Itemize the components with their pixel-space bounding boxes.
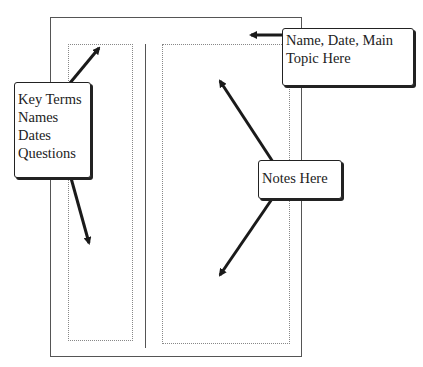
callout-notes: Notes Here xyxy=(258,160,342,199)
callout-key-terms-line: Dates xyxy=(18,126,87,144)
arrow-to-notes-top xyxy=(220,81,273,162)
callout-key-terms-line: Questions xyxy=(18,144,87,162)
callout-header-line: Name, Date, Main xyxy=(286,31,410,49)
callout-notes-label: Notes Here xyxy=(262,169,338,187)
arrow-to-left-column-bottom xyxy=(71,178,89,243)
callout-header-info: Name, Date, Main Topic Here xyxy=(282,28,414,86)
arrow-to-left-column-top xyxy=(70,48,99,83)
callout-key-terms: Key Terms Names Dates Questions xyxy=(14,82,91,178)
callout-key-terms-line: Names xyxy=(18,108,87,126)
callout-header-line: Topic Here xyxy=(286,49,410,67)
callout-key-terms-line: Key Terms xyxy=(18,90,87,108)
arrow-to-notes-bottom xyxy=(220,199,272,275)
